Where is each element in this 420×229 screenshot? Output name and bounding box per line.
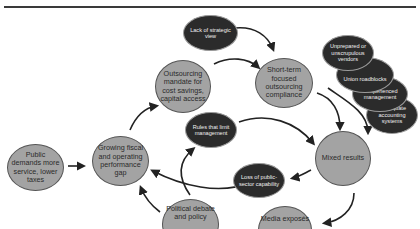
node-loss-capability: Loss of public-sector capability (233, 163, 285, 198)
arrow-rules-to-mixed (239, 118, 313, 143)
node-short-term: Short-term focused outsourcing complianc… (255, 58, 313, 108)
node-lack-strategic: Lack of strategic view (183, 15, 238, 51)
node-unprepared-vendors: Unprepared or unscrupulous vendors (322, 35, 374, 71)
node-mixed-results: Mixed results (315, 131, 371, 186)
node-rules-limit: Rules that limit management (185, 112, 237, 148)
arrow-political-to-gap (141, 188, 160, 212)
arrow-gap-to-outsourcing (130, 106, 156, 130)
node-political-debate: Political debate and policy (162, 199, 219, 229)
node-growing-gap: Growing fiscal and operating performance… (92, 136, 149, 186)
node-public-demands: Public demands more service, lower taxes (7, 144, 64, 191)
arrow-shortterm-to-mixed (317, 93, 340, 128)
arrow-lack-to-shortterm (235, 28, 273, 49)
arrow-outsourcing-to-shortterm (214, 59, 258, 67)
arrow-mixed-to-media (325, 193, 354, 223)
arrow-mixed-to-loss (293, 170, 311, 178)
node-outsourcing-mandate: Outsourcing mandate for cost savings, ca… (155, 60, 211, 113)
arrow-political-to-rules (181, 149, 193, 195)
